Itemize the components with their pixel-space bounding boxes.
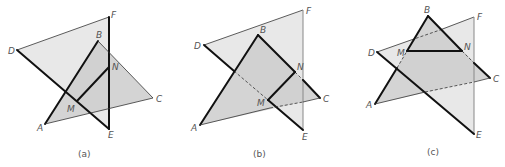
label-c-C: C [493, 74, 500, 84]
label-b-B: B [260, 25, 266, 35]
label-a-N: N [112, 62, 119, 72]
label-c-F: F [477, 12, 483, 22]
label-b-D: D [194, 41, 201, 51]
label-a-A: A [36, 123, 43, 133]
label-a-E: E [108, 130, 114, 140]
caption-a: (a) [78, 149, 91, 159]
label-a-M: M [67, 104, 75, 114]
label-b-M: M [257, 98, 265, 108]
figure-b: D F B N C M A E (b) [190, 6, 330, 159]
label-a-F: F [111, 10, 117, 20]
figure-a: D F B N C M A E (a) [8, 10, 163, 159]
label-c-E: E [476, 130, 482, 140]
label-a-B: B [96, 30, 102, 40]
label-b-E: E [302, 132, 308, 142]
caption-c: (c) [427, 147, 439, 157]
intersecting-triangles-diagram: D F B N C M A E (a) D F B N C M A [0, 0, 505, 167]
label-c-A: A [365, 100, 372, 110]
label-b-F: F [306, 6, 312, 16]
caption-b: (b) [253, 149, 266, 159]
label-a-C: C [156, 94, 163, 104]
label-c-N: N [464, 42, 471, 52]
label-b-A: A [190, 123, 197, 133]
label-c-D: D [368, 48, 375, 58]
label-b-N: N [297, 62, 304, 72]
label-c-M: M [397, 48, 405, 58]
figure-c: D F B N C M A E (c) [365, 5, 500, 157]
label-a-D: D [8, 46, 15, 56]
label-b-C: C [323, 94, 330, 104]
label-c-B: B [424, 5, 430, 15]
